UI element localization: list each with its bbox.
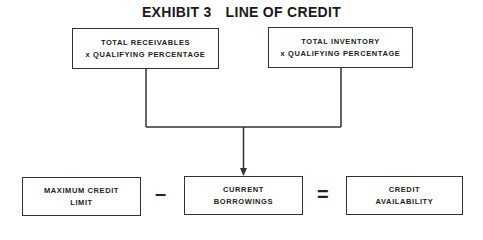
box-line: x QUALIFYING PERCENTAGE bbox=[86, 49, 206, 61]
total-receivables-box: TOTAL RECEIVABLES x QUALIFYING PERCENTAG… bbox=[72, 28, 219, 69]
box-line: CURRENT bbox=[223, 184, 264, 196]
box-line: AVAILABILITY bbox=[376, 196, 434, 208]
box-line: CREDIT bbox=[389, 184, 421, 196]
box-line: x QUALIFYING PERCENTAGE bbox=[281, 48, 401, 60]
box-line: MAXIMUM CREDIT bbox=[44, 185, 119, 197]
current-borrowings-box: CURRENT BORROWINGS bbox=[184, 176, 303, 215]
box-line: LIMIT bbox=[70, 197, 93, 209]
maximum-credit-limit-box: MAXIMUM CREDIT LIMIT bbox=[22, 177, 141, 216]
arrow-head-icon bbox=[240, 168, 247, 176]
total-inventory-box: TOTAL INVENTORY x QUALIFYING PERCENTAGE bbox=[268, 27, 413, 68]
box-line: TOTAL INVENTORY bbox=[301, 36, 380, 48]
box-line: TOTAL RECEIVABLES bbox=[101, 37, 190, 49]
equals-operator: = bbox=[317, 183, 329, 206]
box-line: BORROWINGS bbox=[214, 196, 273, 208]
credit-availability-box: CREDIT AVAILABILITY bbox=[346, 176, 463, 215]
minus-operator: – bbox=[155, 182, 166, 205]
